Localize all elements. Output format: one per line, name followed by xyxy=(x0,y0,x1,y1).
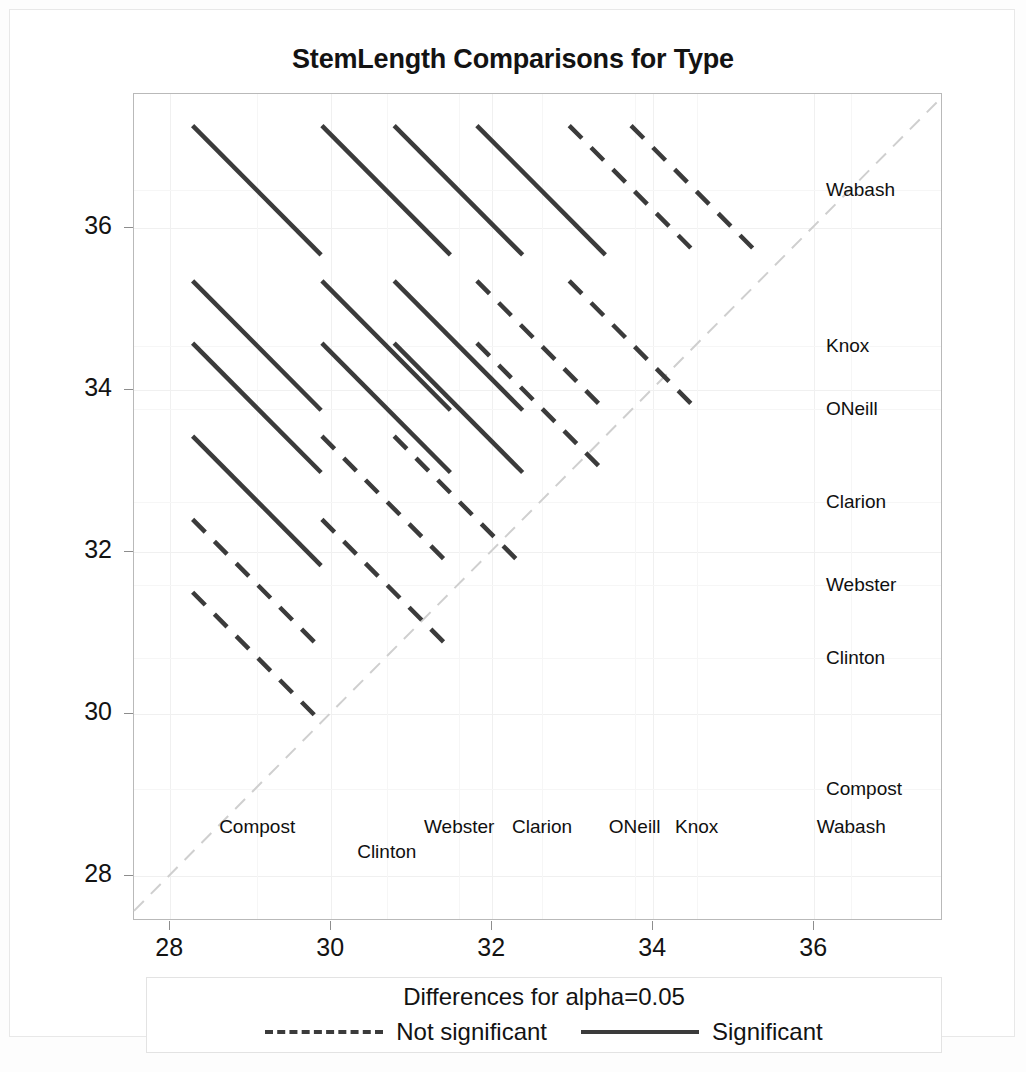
column-group-label-compost: Compost xyxy=(197,816,317,838)
comparison-line-not-significant xyxy=(193,519,321,648)
row-group-label-oneill: ONeill xyxy=(826,398,878,420)
x-tick-mark xyxy=(491,921,492,930)
comparison-line-significant xyxy=(394,126,522,255)
legend: Differences for alpha=0.05 Not significa… xyxy=(146,977,942,1053)
legend-entry: Significant xyxy=(581,1018,823,1046)
y-tick-mark xyxy=(124,551,133,552)
comparison-line-significant xyxy=(477,126,605,255)
comparison-line-significant xyxy=(193,281,321,410)
y-tick-label: 28 xyxy=(42,859,112,888)
x-tick-label: 34 xyxy=(612,933,692,962)
comparison-line-significant xyxy=(394,343,522,472)
comparison-line-significant xyxy=(394,281,522,410)
comparison-line-not-significant xyxy=(631,126,759,255)
row-group-label-webster: Webster xyxy=(826,574,896,596)
y-tick-mark xyxy=(124,875,133,876)
comparison-lines-layer xyxy=(134,94,941,919)
comparison-line-significant xyxy=(322,343,450,472)
column-group-label-wabash: Wabash xyxy=(791,816,911,838)
legend-title: Differences for alpha=0.05 xyxy=(147,983,941,1011)
x-tick-mark xyxy=(813,921,814,930)
row-group-label-wabash: Wabash xyxy=(826,179,895,201)
x-tick-mark xyxy=(330,921,331,930)
comparison-line-significant xyxy=(193,126,321,255)
row-group-label-clarion: Clarion xyxy=(826,491,886,513)
comparison-line-not-significant xyxy=(193,592,321,721)
comparison-line-significant xyxy=(322,281,450,410)
legend-label: Not significant xyxy=(396,1018,547,1046)
x-tick-mark xyxy=(652,921,653,930)
column-group-label-knox: Knox xyxy=(637,816,757,838)
plot-area: WabashKnoxONeillClarionWebsterClintonCom… xyxy=(133,93,942,920)
legend-entry: Not significant xyxy=(265,1018,547,1046)
x-tick-mark xyxy=(169,921,170,930)
page-title: StemLength Comparisons for Type xyxy=(0,44,1026,75)
row-group-label-knox: Knox xyxy=(826,335,869,357)
identity-reference-line xyxy=(134,98,941,911)
x-tick-label: 36 xyxy=(773,933,853,962)
legend-entries: Not significantSignificant xyxy=(147,1018,941,1046)
y-tick-mark xyxy=(124,713,133,714)
x-tick-label: 30 xyxy=(290,933,370,962)
legend-swatch-dashed xyxy=(265,1030,383,1034)
comparison-line-significant xyxy=(322,126,450,255)
y-tick-mark xyxy=(124,389,133,390)
y-tick-label: 30 xyxy=(42,697,112,726)
legend-swatch-solid xyxy=(581,1030,699,1034)
comparison-line-not-significant xyxy=(477,281,605,410)
row-group-label-clinton: Clinton xyxy=(826,647,885,669)
column-group-label-clinton: Clinton xyxy=(327,841,447,863)
y-tick-label: 36 xyxy=(42,211,112,240)
comparison-line-not-significant xyxy=(322,519,450,648)
y-tick-mark xyxy=(124,227,133,228)
chart-page: StemLength Comparisons for Type WabashKn… xyxy=(0,0,1026,1072)
x-tick-label: 32 xyxy=(451,933,531,962)
legend-label: Significant xyxy=(712,1018,823,1046)
comparison-line-not-significant xyxy=(477,343,605,472)
y-tick-label: 34 xyxy=(42,373,112,402)
y-tick-label: 32 xyxy=(42,535,112,564)
x-tick-label: 28 xyxy=(129,933,209,962)
row-group-label-compost: Compost xyxy=(826,778,902,800)
